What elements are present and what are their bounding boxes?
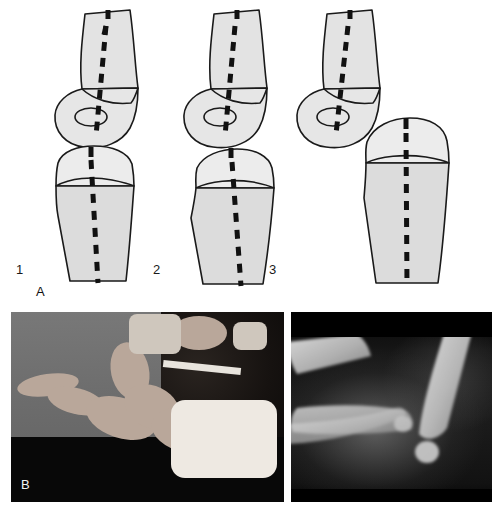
capitellum-ellipse	[317, 108, 349, 126]
panel-a-label: A	[36, 284, 45, 299]
capitellum-nucleus-xray	[394, 416, 412, 432]
wrist-cuff	[233, 322, 267, 350]
diagram-3: 3	[288, 0, 488, 300]
xray-border-bottom	[291, 489, 492, 502]
xray-border-top	[291, 312, 492, 337]
humerus-shaft	[323, 10, 380, 89]
capitellum-ellipse	[204, 108, 236, 126]
humerus-shaft	[81, 10, 138, 89]
diagram-1-number: 1	[16, 262, 23, 277]
diaper	[171, 400, 277, 478]
figure-root: 1	[0, 0, 503, 515]
panel-a-diagrams: 1	[0, 0, 503, 305]
radiograph	[291, 312, 492, 502]
diagram-3-number: 3	[269, 262, 276, 277]
radial-head-ossific-nucleus	[415, 441, 439, 463]
xray-bones	[291, 312, 492, 502]
panel-b-label: B	[21, 477, 30, 492]
radial-head	[56, 146, 134, 186]
humerus-xray	[291, 334, 371, 374]
clinical-photograph: B	[11, 312, 284, 502]
panel-b-photographs: B	[0, 307, 503, 515]
humerus-shaft	[210, 10, 267, 89]
diagram-1: 1	[46, 0, 196, 300]
diagram-2-number: 2	[153, 262, 160, 277]
sleeve-cuff	[129, 314, 181, 354]
caption-cut-off	[280, 504, 503, 515]
radius-xray	[419, 324, 471, 439]
capitellum-ellipse	[75, 108, 107, 126]
